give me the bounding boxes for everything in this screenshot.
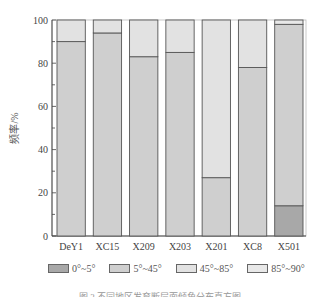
- legend-swatch-45-85: [176, 264, 197, 273]
- bar-XC15: [93, 20, 121, 236]
- bars: [57, 20, 303, 236]
- y-axis-label: 频率/%: [8, 112, 20, 143]
- x-tick-label: X201: [205, 241, 227, 252]
- bar-segment: [238, 20, 266, 68]
- bar-X209: [130, 20, 158, 236]
- legend-label: 45°~85°: [200, 263, 233, 274]
- bar-segment: [130, 20, 158, 57]
- y-tick-label: 80: [38, 58, 48, 69]
- y-tick-label: 20: [38, 187, 48, 198]
- bar-segment: [166, 52, 194, 236]
- legend-item-5-45: 5°~45°: [109, 263, 161, 274]
- legend-label: 85°~90°: [271, 263, 304, 274]
- x-tick-label: XC8: [243, 241, 262, 252]
- legend-item-45-85: 45°~85°: [176, 263, 233, 274]
- bar-segment: [238, 68, 266, 236]
- bar-segment: [275, 206, 303, 236]
- stacked-bar-chart: 020406080100DeY1XC15X209X203X201XC8X501 …: [0, 0, 319, 260]
- x-tick-label: XC15: [95, 241, 119, 252]
- bar-segment: [166, 20, 194, 52]
- y-tick-label: 60: [38, 101, 48, 112]
- x-tick-label: X501: [278, 241, 300, 252]
- y-tick-label: 0: [43, 231, 48, 242]
- legend: 0°~5° 5°~45° 45°~85° 85°~90°: [48, 263, 305, 274]
- bar-segment: [275, 20, 303, 24]
- x-tick-label: DeY1: [59, 241, 83, 252]
- legend-swatch-5-45: [109, 264, 130, 273]
- bar-segment: [130, 57, 158, 236]
- bar-segment: [93, 20, 121, 33]
- bar-segment: [202, 178, 230, 236]
- bar-segment: [57, 20, 85, 42]
- bar-DeY1: [57, 20, 85, 236]
- bar-segment: [57, 42, 85, 236]
- x-tick-label: X209: [133, 241, 155, 252]
- bar-segment: [202, 20, 230, 178]
- bar-segment: [275, 24, 303, 205]
- legend-item-85-90: 85°~90°: [247, 263, 304, 274]
- legend-label: 0°~5°: [72, 263, 95, 274]
- y-tick-label: 100: [33, 15, 48, 26]
- bar-X201: [202, 20, 230, 236]
- bar-XC8: [238, 20, 266, 236]
- legend-swatch-0-5: [48, 264, 69, 273]
- legend-item-0-5: 0°~5°: [48, 263, 95, 274]
- x-tick-label: X203: [169, 241, 191, 252]
- legend-swatch-85-90: [247, 264, 268, 273]
- figure-caption: 图 3 不同地区发育断层面倾角分布直方图: [40, 289, 280, 297]
- bar-X203: [166, 20, 194, 236]
- y-tick-label: 40: [38, 144, 48, 155]
- legend-label: 5°~45°: [133, 263, 161, 274]
- bar-segment: [93, 33, 121, 236]
- bar-X501: [275, 20, 303, 236]
